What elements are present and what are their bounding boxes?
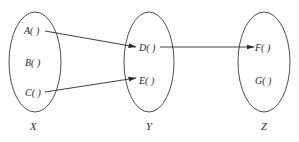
arrow-a-to-d (45, 31, 136, 47)
element-e-label: E( ) (138, 75, 155, 87)
set-y-ellipse (124, 12, 174, 112)
set-x: A( ) B( ) C( ) X (9, 12, 61, 132)
set-z-ellipse (238, 12, 290, 112)
set-mapping-diagram: A( ) B( ) C( ) X D( ) E( ) Y F( ) G( ) Z (0, 0, 299, 142)
element-f-label: F( ) (254, 42, 271, 54)
arrow-c-to-e (45, 78, 136, 92)
element-c-label: C( ) (25, 87, 42, 99)
element-a-label: A( ) (23, 25, 40, 37)
set-y: D( ) E( ) Y (124, 12, 174, 132)
set-x-label: X (29, 121, 37, 132)
set-z-label: Z (261, 121, 267, 132)
set-z: F( ) G( ) Z (238, 12, 290, 132)
set-y-label: Y (146, 121, 153, 132)
element-b-label: B( ) (25, 57, 41, 69)
element-g-label: G( ) (255, 75, 272, 87)
element-d-label: D( ) (138, 42, 156, 54)
